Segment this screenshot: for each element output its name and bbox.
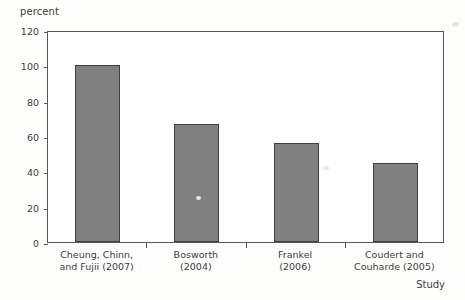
x-axis-tick-mark bbox=[246, 243, 247, 248]
bar-chart-figure: percent Study 020406080100120Cheung, Chi… bbox=[0, 0, 465, 300]
y-axis-tick-mark bbox=[44, 67, 48, 68]
plot-area bbox=[47, 31, 444, 243]
y-axis-tick-mark bbox=[44, 209, 48, 210]
x-axis-category-label-line: and Fujii (2007) bbox=[47, 261, 146, 273]
y-axis-title: percent bbox=[20, 6, 59, 17]
x-axis-category-label: Coudert andCouharde (2005) bbox=[345, 249, 444, 272]
y-axis-tick-mark bbox=[44, 138, 48, 139]
bar bbox=[274, 143, 319, 242]
y-axis-tick-mark bbox=[44, 244, 48, 245]
bar bbox=[373, 163, 418, 243]
y-axis-tick-label: 40 bbox=[0, 167, 39, 178]
bar bbox=[174, 124, 219, 242]
x-axis-tick-mark bbox=[146, 243, 147, 248]
y-axis-tick-mark bbox=[44, 103, 48, 104]
x-axis-title: Study bbox=[416, 279, 445, 290]
y-axis-tick-mark bbox=[44, 173, 48, 174]
x-axis-tick-mark bbox=[345, 243, 346, 248]
x-axis-category-label-line: Couharde (2005) bbox=[345, 261, 444, 273]
x-axis-category-label: Cheung, Chinn,and Fujii (2007) bbox=[47, 249, 146, 272]
y-axis-tick-label: 120 bbox=[0, 26, 39, 37]
y-axis-tick-mark bbox=[44, 32, 48, 33]
x-axis-category-label-line: (2006) bbox=[246, 261, 345, 273]
x-axis-category-label-line: Frankel bbox=[278, 249, 312, 260]
x-axis-category-label-line: Coudert and bbox=[365, 249, 424, 260]
y-axis-tick-label: 100 bbox=[0, 61, 39, 72]
x-axis-category-label: Bosworth(2004) bbox=[146, 249, 245, 272]
scan-speck bbox=[452, 22, 459, 27]
bar bbox=[75, 65, 120, 242]
y-axis-tick-label: 80 bbox=[0, 96, 39, 107]
y-axis-tick-label: 20 bbox=[0, 202, 39, 213]
x-axis-category-label: Frankel(2006) bbox=[246, 249, 345, 272]
x-axis-category-label-line: Cheung, Chinn, bbox=[60, 249, 133, 260]
x-axis-category-label-line: (2004) bbox=[146, 261, 245, 273]
x-axis-category-label-line: Bosworth bbox=[174, 249, 219, 260]
y-axis-tick-label: 0 bbox=[0, 238, 39, 249]
y-axis-tick-label: 60 bbox=[0, 132, 39, 143]
